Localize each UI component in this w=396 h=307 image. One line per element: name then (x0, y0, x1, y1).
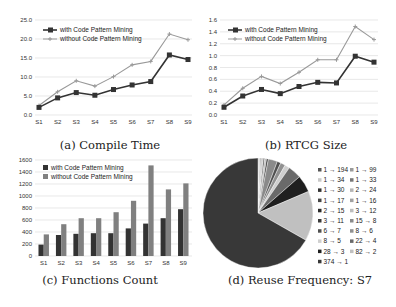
legend-label: 1 → 33 (356, 176, 377, 183)
legend-swatch (350, 178, 354, 182)
y-tick-label: 1.4 (209, 29, 218, 35)
y-tick-label: 1.2 (209, 41, 218, 47)
data-point (93, 84, 97, 88)
legend-label: 22 → 4 (356, 237, 377, 244)
bar (56, 235, 61, 256)
data-point (92, 93, 97, 98)
y-tick-label: 1400 (19, 169, 33, 175)
legend-swatch (318, 199, 322, 203)
x-tick-label: S9 (180, 260, 188, 266)
legend-label: 8 → 6 (356, 227, 374, 234)
y-tick-label: 15.0 (20, 55, 32, 61)
legend-label: without Code Pattern Mining (59, 35, 142, 43)
data-point (111, 87, 116, 92)
legend-marker (48, 37, 52, 41)
legend-label: 1 → 30 (324, 186, 345, 193)
bar (131, 201, 136, 256)
x-tick-label: S1 (40, 260, 48, 266)
y-tick-label: 600 (22, 217, 33, 223)
y-tick-label: 1200 (19, 181, 33, 187)
bar (178, 209, 183, 256)
legend-label: without Code Pattern Mining (244, 35, 327, 43)
x-tick-label: S7 (145, 260, 153, 266)
x-tick-label: S7 (147, 119, 155, 125)
x-tick-label: S3 (73, 119, 81, 125)
legend-label: 8 → 5 (324, 237, 342, 244)
x-tick-label: S4 (91, 119, 99, 125)
figure: 0.05.010.015.020.025.0S1S2S3S4S5S6S7S8S9… (0, 0, 396, 307)
legend-swatch (350, 199, 354, 203)
x-tick-label: S5 (295, 119, 303, 125)
y-tick-label: 1600 (19, 157, 33, 163)
legend-swatch (318, 209, 322, 213)
data-point (278, 91, 283, 96)
x-tick-label: S9 (370, 119, 378, 125)
legend-label: with Code Pattern Mining (244, 26, 318, 34)
data-point (186, 38, 190, 42)
legend-label: 82 → 2 (356, 248, 377, 255)
data-point (186, 57, 191, 62)
legend-swatch (350, 229, 354, 233)
caption-d: (d) Reuse Frequency: S7 (220, 273, 380, 287)
legend-label: 1 → 17 (324, 197, 345, 204)
legend-label: 3 → 11 (324, 217, 345, 224)
data-point (167, 52, 172, 57)
legend-label: 6 → 7 (324, 227, 342, 234)
x-tick-label: S8 (166, 119, 174, 125)
bar (161, 218, 166, 256)
bar (166, 189, 171, 256)
bar (96, 218, 101, 256)
bar (126, 228, 131, 256)
caption-c: (c) Functions Count (30, 273, 170, 287)
x-tick-label: S1 (220, 119, 228, 125)
legend-swatch (318, 260, 322, 264)
bar (38, 245, 43, 256)
legend-label: with Code Pattern Mining (50, 164, 124, 172)
y-tick-label: 0.4 (209, 88, 218, 94)
legend-label: 1 → 99 (356, 166, 377, 173)
x-tick-label: S6 (127, 260, 135, 266)
legend-swatch (318, 168, 322, 172)
x-tick-label: S7 (333, 119, 341, 125)
y-tick-label: 0.8 (209, 65, 218, 71)
data-point (148, 79, 153, 84)
bar (44, 234, 49, 256)
data-point (334, 80, 339, 85)
x-tick-label: S1 (35, 119, 43, 125)
series-line (39, 55, 188, 107)
data-point (372, 60, 377, 65)
data-point (74, 90, 79, 95)
legend-swatch (318, 250, 322, 254)
y-tick-label: 10.0 (20, 74, 32, 80)
legend-swatch (318, 229, 322, 233)
y-tick-label: 0.0 (24, 112, 33, 118)
legend-label: 1 → 16 (356, 197, 377, 204)
x-tick-label: S3 (75, 260, 83, 266)
y-tick-label: 1000 (19, 193, 33, 199)
legend-marker (48, 28, 53, 33)
x-tick-label: S5 (110, 260, 118, 266)
legend-label: 28 → 3 (324, 248, 345, 255)
bar (114, 212, 119, 256)
data-point (259, 87, 264, 92)
data-point (240, 94, 245, 99)
legend-swatch (350, 209, 354, 213)
bar (183, 183, 188, 256)
legend-swatch (318, 219, 322, 223)
x-tick-label: S4 (277, 119, 285, 125)
y-tick-label: 1.6 (209, 17, 218, 23)
x-tick-label: S9 (184, 119, 192, 125)
data-point (315, 80, 320, 85)
legend-label: 374 → 1 (324, 258, 349, 265)
series-line (224, 56, 374, 107)
legend-swatch (350, 219, 354, 223)
x-tick-label: S2 (239, 119, 247, 125)
x-tick-label: S6 (314, 119, 322, 125)
legend-label: with Code Pattern Mining (59, 26, 133, 34)
data-point (297, 84, 302, 89)
y-tick-label: 0.0 (209, 112, 218, 118)
legend-label: 15 → 8 (356, 217, 377, 224)
legend-swatch (318, 239, 322, 243)
x-tick-label: S5 (110, 119, 118, 125)
legend-label: without Code Pattern Mining (50, 173, 133, 181)
